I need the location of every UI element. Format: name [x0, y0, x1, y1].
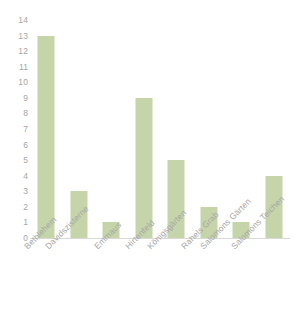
x-axis-category-labels: BethlehemDavidszisterneEmmausHirtenfeldK…: [30, 240, 292, 319]
bar-slot: [160, 20, 193, 238]
y-axis-tick-label: 7: [6, 125, 28, 134]
bar[interactable]: [38, 36, 55, 238]
y-axis-tick-label: 12: [6, 47, 28, 56]
y-axis-tick-label: 13: [6, 31, 28, 40]
bars-container: [30, 20, 292, 238]
y-axis-tick-label: 10: [6, 78, 28, 87]
y-axis-tick-label: 1: [6, 218, 28, 227]
y-axis-tick-label: 6: [6, 140, 28, 149]
y-axis: 14131211109876543210: [0, 0, 28, 319]
bar-slot: [128, 20, 161, 238]
y-axis-tick-label: 5: [6, 156, 28, 165]
bar-slot: [95, 20, 128, 238]
y-axis-tick-label: 3: [6, 187, 28, 196]
bar-chart: 14131211109876543210 BethlehemDavidszist…: [0, 0, 296, 319]
y-axis-tick-label: 9: [6, 94, 28, 103]
y-axis-tick-label: 8: [6, 109, 28, 118]
y-axis-tick-label: 14: [6, 16, 28, 25]
y-axis-tick-label: 11: [6, 62, 28, 71]
bar-slot: [63, 20, 96, 238]
y-axis-tick-label: 4: [6, 171, 28, 180]
bar-slot: [30, 20, 63, 238]
bar-slot: [193, 20, 226, 238]
y-axis-tick-label: 2: [6, 203, 28, 212]
